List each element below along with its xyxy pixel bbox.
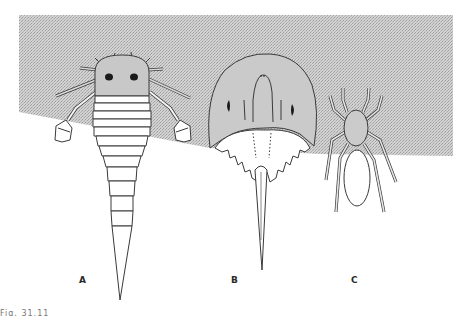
eurypterid-illustration bbox=[55, 52, 191, 300]
panel-label-c: C bbox=[351, 275, 358, 285]
figure-caption-fragment: Fig. 31.11 bbox=[0, 309, 49, 316]
panel-label-a: A bbox=[79, 275, 86, 285]
arthropod-figure bbox=[0, 0, 466, 316]
horseshoe-crab-illustration bbox=[209, 54, 317, 270]
panel-label-b: B bbox=[231, 275, 238, 285]
